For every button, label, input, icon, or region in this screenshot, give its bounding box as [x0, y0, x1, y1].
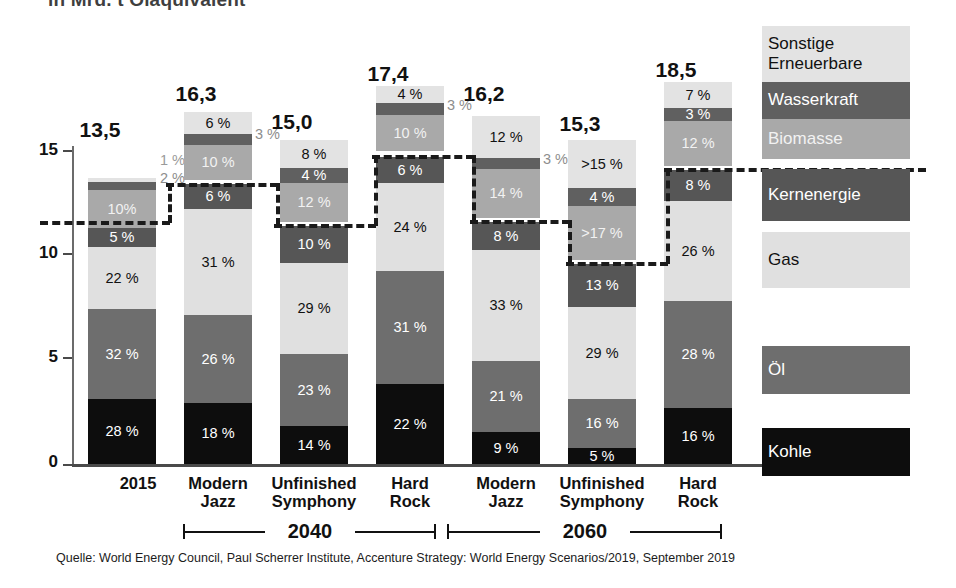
- x-label-hr2060-line2: Rock: [644, 492, 752, 510]
- group-label-2040: 2040: [265, 520, 355, 543]
- segment-hr2040-gas[interactable]: 24 %: [376, 183, 444, 271]
- legend-item-gas[interactable]: Gas: [762, 232, 910, 288]
- segment-hr2040-oel[interactable]: 31 %: [376, 271, 444, 384]
- renewables-divider-step-3: [374, 155, 378, 226]
- x-label-unfinished-symphony-2040: Unfinished Symphony: [260, 474, 368, 511]
- segment-mj2040-gas[interactable]: 31 %: [184, 209, 252, 315]
- legend-label-kohle: Kohle: [768, 443, 811, 461]
- segment-mj2040-kohle[interactable]: 18 %: [184, 403, 252, 464]
- legend-label-oel: Öl: [768, 361, 785, 379]
- x-label-mj2060-line2: Jazz: [452, 492, 560, 510]
- legend-item-kohle[interactable]: Kohle: [762, 428, 910, 476]
- segment-hr2040-sonstige[interactable]: 4 %: [376, 86, 444, 103]
- legend-label-kernenergie: Kernenergie: [768, 186, 861, 204]
- segment-hr2040-kernenergie[interactable]: 6 %: [376, 157, 444, 183]
- x-label-mj2040-line2: Jazz: [164, 492, 272, 510]
- segment-us2060-wasserkraft[interactable]: 4 %: [568, 188, 636, 206]
- renewables-divider-step-1: [168, 183, 172, 223]
- x-label-hr2060-line1: Hard: [644, 474, 752, 492]
- segment-2015-gas[interactable]: 22 %: [88, 247, 156, 309]
- source-note: Quelle: World Energy Council, Paul Scher…: [56, 551, 735, 565]
- segment-us2060-gas[interactable]: 29 %: [568, 307, 636, 399]
- legend-item-biomasse[interactable]: Biomasse: [762, 119, 910, 159]
- segment-hr2040-wasserkraft[interactable]: 3 %: [376, 103, 444, 115]
- renewables-divider-step-5: [568, 220, 572, 264]
- y-tick-label-0: 0: [18, 452, 58, 472]
- legend-item-sonstige-erneuerbare[interactable]: Sonstige Erneuerbare: [762, 26, 910, 82]
- bar-total-us2040: 15,0: [244, 110, 340, 134]
- x-label-modern-jazz-2060: Modern Jazz: [452, 474, 560, 511]
- renewables-divider-seg-6: [566, 262, 668, 266]
- segment-hr2060-kohle[interactable]: 16 %: [664, 408, 732, 464]
- segment-us2040-wasserkraft[interactable]: 4 %: [280, 168, 348, 183]
- renewables-divider-seg-3: [274, 224, 376, 228]
- segment-2015-kernenergie[interactable]: 5 %: [88, 228, 156, 247]
- segment-mj2060-biomasse[interactable]: 14 %: [472, 169, 540, 218]
- segment-us2060-sonstige[interactable]: >15 %: [568, 140, 636, 188]
- bar-total-hr2060: 18,5: [628, 58, 724, 82]
- segment-mj2040-wasserkraft[interactable]: 3 %: [184, 134, 252, 145]
- segment-hr2060-biomasse[interactable]: 12 %: [664, 121, 732, 166]
- y-tick-label-10: 10: [18, 243, 58, 263]
- bar-total-us2060: 15,3: [532, 112, 628, 136]
- segment-hr2060-gas[interactable]: 26 %: [664, 201, 732, 301]
- x-label-us2060-line2: Symphony: [548, 492, 656, 510]
- x-axis-line: [72, 464, 872, 467]
- group-label-2060: 2060: [540, 520, 630, 543]
- legend-label-sonstige-line2: Erneuerbare: [768, 54, 863, 74]
- x-label-hard-rock-2040: Hard Rock: [356, 474, 464, 511]
- x-label-hard-rock-2060: Hard Rock: [644, 474, 752, 511]
- x-label-hr2040-line2: Rock: [356, 492, 464, 510]
- y-tick-0: [63, 464, 72, 466]
- segment-mj2060-wasserkraft[interactable]: 3 %: [472, 158, 540, 169]
- bar-total-mj2060: 16,2: [436, 82, 532, 106]
- segment-mj2040-oel[interactable]: 26 %: [184, 315, 252, 403]
- segment-us2040-gas[interactable]: 29 %: [280, 263, 348, 354]
- x-label-us2040-line1: Unfinished: [260, 474, 368, 492]
- segment-mj2060-sonstige[interactable]: 12 %: [472, 116, 540, 158]
- renewables-divider-step-4: [472, 155, 476, 222]
- segment-mj2060-oel[interactable]: 21 %: [472, 361, 540, 432]
- segment-2015-kohle[interactable]: 28 %: [88, 399, 156, 464]
- segment-us2040-kernenergie[interactable]: 10 %: [280, 226, 348, 263]
- renewables-divider-step-6: [666, 168, 670, 264]
- segment-mj2040-kernenergie[interactable]: 6 %: [184, 184, 252, 209]
- x-label-mj2040-line1: Modern: [164, 474, 272, 492]
- segment-mj2040-biomasse[interactable]: 10 %: [184, 145, 252, 180]
- legend-item-kernenergie[interactable]: Kernenergie: [762, 169, 910, 221]
- segment-us2040-oel[interactable]: 23 %: [280, 354, 348, 426]
- segment-us2060-kohle[interactable]: 5 %: [568, 448, 636, 464]
- y-tick-label-15: 15: [18, 140, 58, 160]
- segment-us2040-kohle[interactable]: 14 %: [280, 426, 348, 464]
- segment-hr2040-biomasse[interactable]: 10 %: [376, 115, 444, 151]
- segment-us2040-biomasse[interactable]: 12 %: [280, 183, 348, 222]
- legend-item-wasserkraft[interactable]: Wasserkraft: [762, 82, 910, 119]
- segment-hr2060-kernenergie[interactable]: 8 %: [664, 170, 732, 201]
- segment-mj2060-kohle[interactable]: 9 %: [472, 432, 540, 464]
- segment-hr2040-kohle[interactable]: 22 %: [376, 384, 444, 464]
- segment-2015-wasserkraft[interactable]: 2 %: [88, 182, 156, 190]
- segment-hr2060-oel[interactable]: 28 %: [664, 301, 732, 408]
- x-label-modern-jazz-2040: Modern Jazz: [164, 474, 272, 511]
- segment-hr2060-wasserkraft[interactable]: 3 %: [664, 108, 732, 121]
- segment-us2060-kernenergie[interactable]: 13 %: [568, 264, 636, 307]
- segment-us2040-sonstige[interactable]: 8 %: [280, 140, 348, 168]
- segment-hr2060-sonstige[interactable]: 7 %: [664, 82, 732, 108]
- legend-label-gas: Gas: [768, 251, 799, 269]
- x-label-us2060-line1: Unfinished: [548, 474, 656, 492]
- renewables-divider-seg-4: [372, 155, 474, 159]
- x-label-us2040-line2: Symphony: [260, 492, 368, 510]
- bar-total-hr2040: 17,4: [340, 62, 436, 86]
- segment-mj2060-kernenergie[interactable]: 8 %: [472, 222, 540, 250]
- y-tick-10: [63, 253, 72, 255]
- segment-mj2040-sonstige[interactable]: 6 %: [184, 112, 252, 134]
- renewables-divider-seg-5: [470, 220, 570, 224]
- segment-2015-oel[interactable]: 32 %: [88, 309, 156, 399]
- y-tick-label-5: 5: [18, 347, 58, 367]
- legend-item-oel[interactable]: Öl: [762, 346, 910, 394]
- renewables-divider-seg-1: [40, 221, 170, 225]
- segment-us2060-biomasse[interactable]: >17 %: [568, 206, 636, 260]
- segment-us2060-oel[interactable]: 16 %: [568, 399, 636, 448]
- callout-2015-sonstige: 1 %: [160, 152, 185, 168]
- segment-mj2060-gas[interactable]: 33 %: [472, 250, 540, 361]
